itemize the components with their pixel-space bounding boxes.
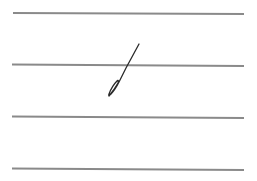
canvas-background — [0, 0, 257, 181]
ruled-line-1 — [13, 13, 244, 14]
handwriting-canvas — [0, 0, 257, 181]
